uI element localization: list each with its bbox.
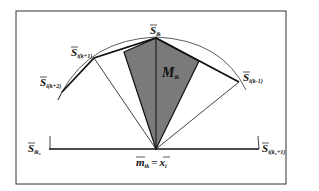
label-s-ik: Sik xyxy=(150,24,161,37)
svg-text:Si(k+1): Si(k+1) xyxy=(71,46,92,60)
label-base-point: mik=xi xyxy=(136,156,170,169)
arrow-s-ik-plus2 xyxy=(58,92,62,100)
svg-text:Sik₀: Sik₀ xyxy=(28,142,41,155)
svg-text:Si(k₀+1): Si(k₀+1) xyxy=(262,142,285,156)
label-s-ik-plus1: Si(k+1) xyxy=(71,46,92,60)
label-s-ik-plus2: Si(k+2) xyxy=(40,76,61,90)
svg-text:mik=xi: mik=xi xyxy=(136,156,167,169)
label-s-ik0: Sik₀ xyxy=(28,142,41,155)
tick-s-ik0-plus1 xyxy=(258,136,259,149)
svg-text:Sik: Sik xyxy=(150,24,161,37)
label-s-ik0-plus1: Si(k₀+1) xyxy=(262,142,285,156)
svg-text:Si(k+2): Si(k+2) xyxy=(40,76,61,90)
svg-text:Si(k-1): Si(k-1) xyxy=(243,71,263,85)
label-s-ik-minus1: Si(k-1) xyxy=(243,71,263,85)
diagram: Sik Si(k+1) Si(k+2) Si(k-1) Sik₀ Si(k₀+1… xyxy=(0,0,319,191)
